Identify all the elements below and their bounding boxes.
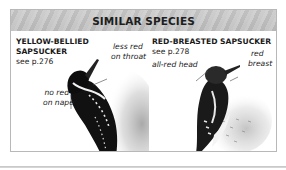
- annotation-line: breast: [248, 59, 272, 69]
- annotation-line: all-red head: [152, 60, 198, 70]
- panel-header: SIMILAR SPECIES: [11, 10, 276, 31]
- page-divider: [0, 166, 286, 168]
- annotation-line: on nape: [43, 98, 69, 108]
- panel-title: SIMILAR SPECIES: [92, 15, 195, 27]
- similar-species-panel: SIMILAR SPECIES: [10, 9, 277, 152]
- annotation-line: less red: [111, 42, 146, 52]
- similar-species-page: SIMILAR SPECIES: [0, 0, 286, 170]
- annotation-line: red: [248, 49, 272, 59]
- annotation-red-breast: red breast: [248, 49, 272, 69]
- species-name: RED-BREASTED SAPSUCKER: [152, 37, 271, 47]
- page-reference[interactable]: see p.276: [16, 57, 53, 67]
- red-breasted-sapsucker-illustration: [178, 61, 277, 152]
- annotation-all-red-head: all-red head: [152, 60, 198, 70]
- species-card-red-breasted: RED-BREASTED SAPSUCKER see p.278 all-red…: [144, 31, 277, 151]
- annotation-no-red-on-nape: no red on nape: [43, 88, 69, 108]
- annotation-less-red-on-throat: less red on throat: [111, 42, 146, 62]
- species-card-yellow-bellied: YELLOW-BELLIED SAPSUCKER see p.276 less …: [11, 31, 144, 151]
- species-name-line1: YELLOW-BELLIED: [16, 37, 89, 47]
- annotation-line: on throat: [111, 52, 146, 62]
- species-name-line2: SAPSUCKER: [16, 47, 67, 57]
- page-reference[interactable]: see p.278: [152, 47, 189, 57]
- annotation-line: no red: [43, 88, 69, 98]
